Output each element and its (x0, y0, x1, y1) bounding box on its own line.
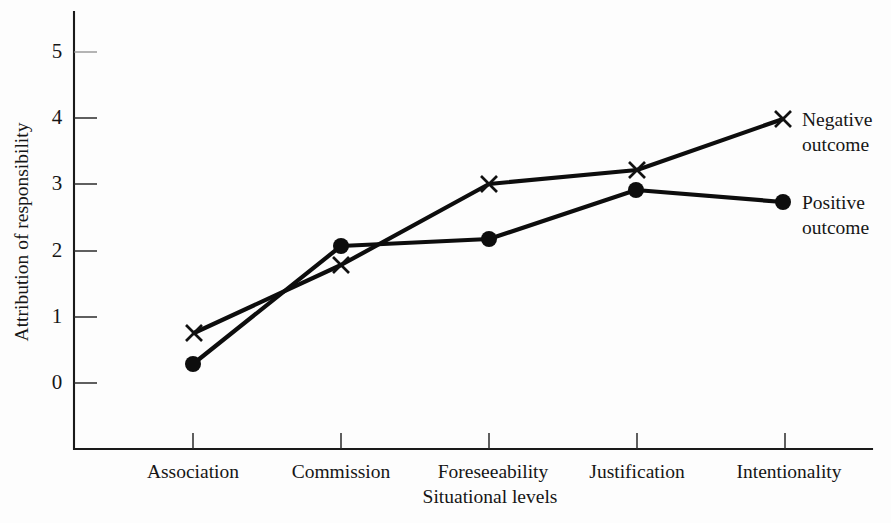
x-label-commission: Commission (292, 461, 391, 482)
x-category-labels: Association Commission Foreseeability Ju… (147, 461, 842, 482)
y-axis-title: Attribution of responsibility (11, 122, 32, 341)
marker-positive-intentionality (775, 194, 791, 210)
y-tick-label-1: 1 (52, 304, 63, 328)
series-positive-outcome (185, 182, 791, 372)
marker-positive-justification (628, 182, 644, 198)
legend-negative-outcome: Negative outcome (802, 109, 872, 155)
y-tick-label-3: 3 (52, 171, 63, 195)
series-positive-outcome-line (193, 190, 783, 364)
y-tick-label-4: 4 (52, 105, 63, 129)
marker-positive-commission (333, 238, 349, 254)
marker-negative-association (186, 325, 202, 341)
y-tick-marks (74, 52, 97, 383)
y-tick-label-0: 0 (52, 370, 63, 394)
x-label-justification: Justification (589, 461, 685, 482)
legend-label-positive-line1: Positive (802, 192, 865, 213)
chart-figure: 5 4 3 2 1 0 Association Commission Fores… (0, 0, 891, 523)
x-tick-marks (193, 433, 785, 449)
axis-lines (74, 12, 872, 449)
legend-label-negative-line2: outcome (802, 134, 869, 155)
legend-positive-outcome: Positive outcome (802, 192, 869, 238)
legend-label-negative-line1: Negative (802, 109, 872, 130)
line-chart-canvas: 5 4 3 2 1 0 Association Commission Fores… (0, 0, 891, 523)
x-label-intentionality: Intentionality (736, 461, 841, 482)
x-label-association: Association (147, 461, 239, 482)
axis-group (74, 12, 872, 449)
marker-negative-commission (333, 257, 349, 273)
marker-positive-foreseeability (481, 231, 497, 247)
series-negative-outcome-line (194, 119, 783, 333)
legend-label-positive-line2: outcome (802, 217, 869, 238)
series-negative-outcome (186, 111, 791, 341)
x-label-foreseeability: Foreseeability (438, 461, 549, 482)
y-tick-label-2: 2 (52, 238, 63, 262)
x-axis-title: Situational levels (423, 486, 558, 507)
marker-positive-association (185, 356, 201, 372)
y-tick-label-5: 5 (52, 39, 63, 63)
y-tick-labels: 5 4 3 2 1 0 (52, 39, 63, 394)
